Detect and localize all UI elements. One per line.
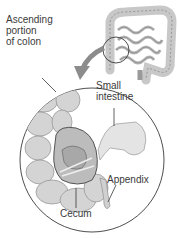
label-ascending-colon: Ascending portion of colon xyxy=(6,14,53,47)
label-appendix: Appendix xyxy=(107,174,149,185)
label-cecum: Cecum xyxy=(60,208,92,219)
label-small-intestine: Small intestine xyxy=(96,80,133,102)
magnified-view xyxy=(20,88,164,232)
large-intestine-overview xyxy=(103,10,172,80)
magnify-arrow-icon xyxy=(74,48,104,80)
